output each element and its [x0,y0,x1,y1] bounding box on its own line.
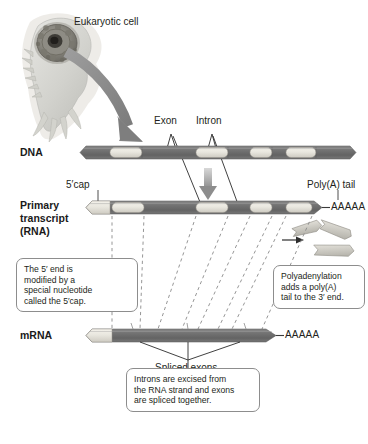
callout-splicing: Introns are excised from the RNA strand … [126,368,260,412]
callout-splicing-line-1: Introns are excised from [134,374,252,385]
mrna-row-label: mRNA [20,329,52,342]
exon-label: Exon [154,115,177,127]
callout-splicing-line-3: are spliced together. [134,395,252,406]
exon-intron-pointer-lines [166,134,239,207]
callout-five-prime-cap: The 5′ end is modified by a special nucl… [16,258,138,312]
figure-canvas: Eukaryotic cell Exon Intron DNA 5′cap Po… [0,0,368,444]
primary-transcript-label-line2: transcript [20,212,68,225]
callout-cap-line-2: modified by a [24,275,130,286]
spliced-exons-bracket [140,342,240,360]
poly-a-tail-label: Poly(A) tail [307,179,355,191]
intron-label: Intron [196,115,222,127]
dna-strand [80,146,356,159]
eukaryotic-cell-label: Eukaryotic cell [74,16,138,28]
callout-polya-line-1: Polyadenylation [281,271,357,282]
mrna-five-prime-cap-marker [86,329,112,342]
callout-cap-line-4: called the 5′cap. [24,296,130,307]
five-prime-cap-marker [86,201,110,214]
poly-a-sequence-transcript: AAAAA [331,201,365,212]
mrna-tick-marks [131,323,246,329]
callout-cap-line-3: special nucleotide [24,285,130,296]
excised-introns [282,219,354,258]
processing-down-arrow [199,168,217,200]
mrna-strand [86,329,284,342]
callout-splicing-line-2: the RNA strand and exons [134,385,252,396]
callout-cap-line-1: The 5′ end is [24,264,130,275]
callout-polya-line-2: adds a poly(A) [281,282,357,293]
callout-polyadenylation: Polyadenylation adds a poly(A) tail to t… [273,265,365,309]
dna-row-label: DNA [20,146,43,159]
primary-transcript-label-line3: (RNA) [20,225,50,238]
poly-a-sequence-mrna: AAAAA [285,329,319,340]
eukaryotic-cell-illustration [22,13,102,142]
five-prime-cap-label: 5′cap [66,179,90,191]
primary-transcript-strand [86,201,330,214]
callout-polya-line-3: tail to the 3′ end. [281,292,357,303]
primary-transcript-label-line1: Primary [20,199,59,212]
